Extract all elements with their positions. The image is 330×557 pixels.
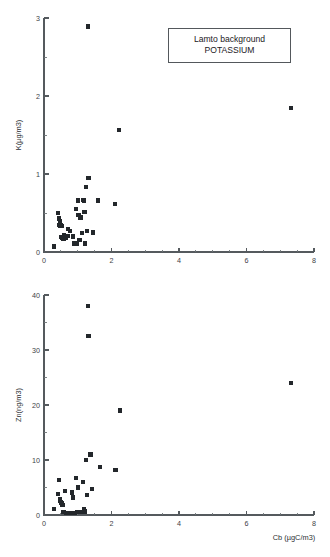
y-axis-tick-label: 0 [36,248,40,257]
x-axis-title: Cb (µgC/m3) [273,533,315,542]
x-axis-tick-label: 8 [312,256,316,265]
data-point [82,198,86,202]
data-point [90,487,94,491]
data-point [83,510,87,514]
data-point [71,495,75,499]
data-point [77,238,81,242]
caption-subtitle-potassium: POTASSIUM [179,45,280,56]
data-point [81,480,85,484]
x-axis-tick-label: 4 [177,519,181,528]
scatter-plot-zinc: 02468010203040Zn(ng/m3)Cb (µgC/m3) [0,277,330,557]
data-point [96,198,100,202]
y-axis-tick-label: 3 [36,14,40,23]
data-point [52,244,56,248]
y-axis-tick-label: 20 [32,401,40,410]
data-point [82,210,86,214]
data-point [63,489,67,493]
data-point [66,234,70,238]
y-axis-tick-label: 1 [36,170,40,179]
data-point [113,202,117,206]
x-axis-tick-label: 8 [312,519,316,528]
y-axis-title: Zn(ng/m3) [14,388,23,422]
data-point [98,465,102,469]
chart-panel-zinc: 02468010203040Zn(ng/m3)Cb (µgC/m3) Lamto… [0,277,330,557]
data-point [58,219,62,223]
data-point [59,224,63,228]
data-point [84,458,88,462]
data-point [74,476,78,480]
data-point [56,211,60,215]
data-point [57,478,61,482]
data-point [84,185,88,189]
data-point [83,241,87,245]
x-axis-tick-label: 0 [42,519,46,528]
y-axis-title: K(µg/m3) [14,120,23,151]
x-axis-tick-label: 0 [42,256,46,265]
data-point [79,215,83,219]
data-point [86,24,90,28]
data-point [76,198,80,202]
x-axis-tick-label: 4 [177,256,181,265]
caption-title-potassium: Lamto background [179,34,280,45]
data-point [56,492,60,496]
y-axis-tick-label: 40 [32,291,40,300]
data-point [70,490,74,494]
data-point [86,176,90,180]
data-point [91,230,95,234]
data-point [85,229,89,233]
data-point [88,452,92,456]
y-axis-tick-label: 10 [32,456,40,465]
data-point [60,503,64,507]
data-point [76,485,80,489]
data-point [289,106,293,110]
y-axis-tick-label: 0 [36,511,40,520]
y-axis-tick-label: 30 [32,346,40,355]
data-point [289,381,293,385]
x-axis-tick-label: 6 [245,256,249,265]
data-point [68,229,72,233]
x-axis-tick-label: 6 [245,519,249,528]
data-point [71,234,75,238]
data-point [86,334,90,338]
chart-panel-potassium: 024680123K(µg/m3) Lamto background POTAS… [0,0,330,280]
caption-box-potassium: Lamto background POTASSIUM [168,28,291,63]
data-point [85,493,89,497]
data-point [80,231,84,235]
figure-scatter-plots: 024680123K(µg/m3) Lamto background POTAS… [0,0,330,557]
data-point [113,468,117,472]
x-axis-tick-label: 2 [110,519,114,528]
x-axis-tick-label: 2 [110,256,114,265]
data-point [52,507,56,511]
data-point [74,207,78,211]
y-axis-tick-label: 2 [36,92,40,101]
data-point [86,304,90,308]
data-point [118,408,122,412]
data-point [117,128,121,132]
data-point-group [52,304,293,516]
